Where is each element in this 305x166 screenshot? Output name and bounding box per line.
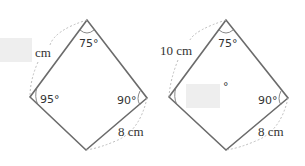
side-length-label: 8 cm <box>118 124 144 139</box>
left-figure: cm 75° 95° 90° 8 cm <box>0 20 147 150</box>
angle-arc <box>80 30 94 33</box>
angle-label-top: 75° <box>79 37 99 50</box>
angle-label-top: 75° <box>218 37 238 50</box>
angle-label-right: 90° <box>117 94 137 107</box>
right-figure: 10 cm 75° ° 90° 8 cm <box>160 20 288 150</box>
angle-arc <box>138 91 140 105</box>
blank-length-box <box>0 38 32 62</box>
side-length-label: 10 cm <box>160 43 192 58</box>
angle-label-right: 90° <box>258 94 278 107</box>
angle-arc <box>219 30 233 33</box>
angle-label-left: 95° <box>40 93 60 106</box>
side-length-label: 8 cm <box>258 124 284 139</box>
side-length-label: cm <box>35 45 51 60</box>
angle-arc <box>279 91 281 105</box>
degree-mark: ° <box>223 80 229 93</box>
quadrilateral-diagrams: cm 75° 95° 90° 8 cm 10 cm 75° ° 90° 8 cm <box>0 0 305 166</box>
blank-angle-box <box>186 84 220 108</box>
